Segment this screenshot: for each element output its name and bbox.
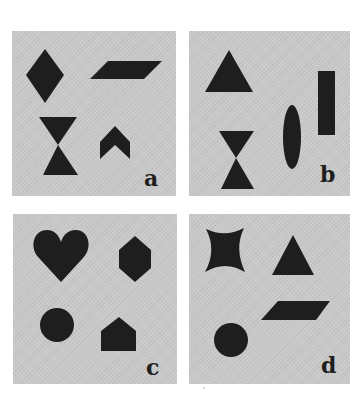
rectangle-shape bbox=[318, 71, 335, 135]
hourglass-shape bbox=[219, 131, 254, 189]
circle-shape bbox=[40, 308, 74, 342]
parallelogram-shape bbox=[261, 301, 330, 320]
panel-label-c: c bbox=[146, 356, 159, 378]
hourglass-shape bbox=[39, 117, 78, 175]
panel-a: a bbox=[12, 31, 176, 196]
panel-label-b: b bbox=[320, 163, 335, 185]
hexagon-shape bbox=[119, 236, 151, 282]
panel-d: d bbox=[189, 214, 350, 384]
ellipse-shape bbox=[283, 105, 301, 169]
chevron-shape bbox=[100, 126, 130, 159]
concave-star-shape bbox=[205, 228, 245, 272]
heart-shape bbox=[33, 230, 88, 282]
panel-label-a: a bbox=[144, 167, 158, 189]
circle-shape bbox=[214, 323, 248, 357]
triangle-shape bbox=[205, 50, 253, 92]
pentagon-house-shape bbox=[101, 317, 136, 351]
stray-dot bbox=[203, 387, 205, 389]
parallelogram-shape bbox=[90, 61, 162, 79]
triangle-shape bbox=[272, 235, 314, 275]
panel-b: b bbox=[189, 31, 350, 196]
diamond-shape bbox=[26, 49, 64, 103]
panel-label-d: d bbox=[321, 354, 336, 376]
panel-c: c bbox=[13, 214, 177, 384]
